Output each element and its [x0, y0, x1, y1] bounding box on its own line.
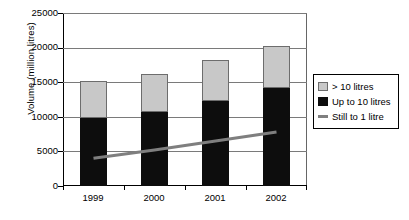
filled-square-black-icon [318, 97, 328, 106]
line-series-still-to-1-litre [63, 13, 307, 186]
y-tick-label-5000: 5000 [12, 146, 58, 156]
chart-container: Volume (million litres) 25000 20000 1500… [0, 0, 409, 220]
x-tick-mark-3 [246, 186, 247, 190]
y-tick-label-20000: 20000 [12, 42, 58, 52]
x-tick-mark-1 [124, 186, 125, 190]
y-tick-label-0: 0 [12, 181, 58, 191]
y-tick-label-10000: 10000 [12, 112, 58, 122]
x-tick-label-2002: 2002 [250, 192, 302, 203]
x-tick-label-1999: 1999 [67, 192, 119, 203]
plot-area [63, 13, 307, 186]
x-tick-mark-start [63, 186, 64, 190]
x-tick-mark-2 [185, 186, 186, 190]
y-tick-label-25000: 25000 [12, 8, 58, 18]
x-tick-mark-end [306, 186, 307, 190]
chart-legend: > 10 litres Up to 10 litres Still to 1 l… [313, 74, 399, 129]
filled-square-gray-icon [318, 82, 328, 91]
cut-off-caption [66, 214, 336, 220]
legend-item-still-to-1-litre[interactable]: Still to 1 litre [318, 109, 395, 124]
legend-item-over-10-litres[interactable]: > 10 litres [318, 79, 395, 94]
legend-item-up-to-10-litres[interactable]: Up to 10 litres [318, 94, 395, 109]
legend-label-still-to-1-litre: Still to 1 litre [332, 111, 384, 122]
x-tick-label-2001: 2001 [189, 192, 241, 203]
legend-label-up-to-10-litres: Up to 10 litres [332, 96, 391, 107]
legend-label-over-10-litres: > 10 litres [332, 81, 373, 92]
line-gray-icon [318, 115, 328, 118]
y-tick-label-15000: 15000 [12, 77, 58, 87]
x-tick-label-2000: 2000 [128, 192, 180, 203]
